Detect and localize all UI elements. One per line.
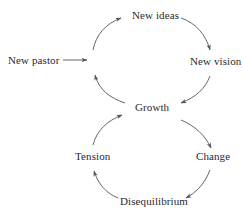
arrow-to-new-ideas bbox=[93, 18, 121, 50]
arrow-disequilibrium-to-tension bbox=[94, 171, 118, 198]
node-tension: Tension bbox=[75, 150, 110, 163]
node-new-vision: New vision bbox=[190, 55, 241, 68]
arrow-growth-to-change bbox=[181, 120, 211, 148]
node-growth: Growth bbox=[135, 101, 169, 114]
node-change: Change bbox=[196, 150, 230, 163]
arrow-growth-to-upper-loop bbox=[95, 75, 125, 103]
node-new-ideas: New ideas bbox=[132, 9, 179, 22]
arrow-tension-to-growth bbox=[93, 115, 122, 145]
arrow-change-to-disequilibrium bbox=[186, 170, 210, 198]
arrow-new-vision-to-growth bbox=[181, 76, 210, 103]
arrow-new-ideas-to-new-vision bbox=[181, 18, 210, 50]
node-disequilibrium: Disequilibrium bbox=[120, 195, 188, 208]
diagram-arrows bbox=[0, 0, 243, 217]
node-new-pastor: New pastor bbox=[8, 54, 59, 67]
cycle-diagram: New pastor New ideas New vision Growth T… bbox=[0, 0, 243, 217]
